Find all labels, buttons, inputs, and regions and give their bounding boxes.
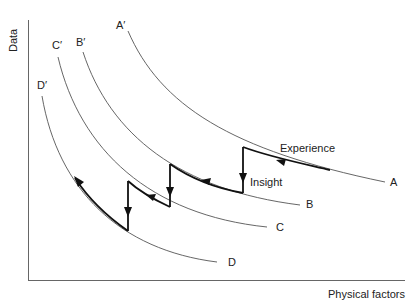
arrow-down-icon — [124, 207, 132, 217]
arrow-down-icon — [166, 187, 174, 197]
insight-label: Insight — [250, 177, 282, 188]
experience-label: Experience — [280, 143, 335, 154]
curve-d-start-label: D′ — [37, 80, 47, 91]
curve-a — [128, 31, 385, 182]
curve-c — [58, 57, 267, 227]
curve-c-start-label: C′ — [52, 40, 62, 51]
experience-segment-b — [170, 164, 243, 193]
curve-b-start-label: B′ — [76, 37, 85, 48]
arrow-left-icon — [276, 159, 286, 166]
experience-segment-c — [128, 181, 170, 207]
curve-a-end-label: A — [390, 177, 397, 188]
arrow-down-icon — [239, 173, 247, 183]
arrowheads — [74, 159, 286, 217]
experience-segment-d — [75, 178, 128, 231]
curve-d — [42, 96, 217, 262]
diagram-canvas — [0, 0, 418, 304]
curve-c-end-label: C — [276, 222, 284, 233]
curve-d-end-label: D — [228, 257, 236, 268]
y-axis-label: Data — [8, 29, 19, 52]
curve-b-end-label: B — [306, 199, 313, 210]
x-axis-label: Physical factors — [328, 289, 405, 300]
curve-a-start-label: A′ — [116, 20, 125, 31]
